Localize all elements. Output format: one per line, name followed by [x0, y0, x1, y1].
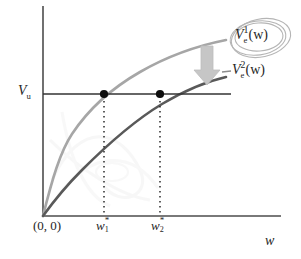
ve2-leader [222, 71, 231, 72]
x-tick-label-w1: w1* [96, 219, 105, 232]
origin-label: (0, 0) [33, 219, 61, 232]
figure-canvas: Vu Ve1(w) Ve2(w) (0, 0) w1* w2* w [0, 0, 301, 259]
x-tick-label-w2: w2* [151, 219, 160, 232]
curve-label-ve1: Ve1(w) [235, 28, 268, 42]
curve-label-ve2: Ve2(w) [232, 63, 265, 77]
intersection-dot-w2 [156, 90, 164, 98]
curve-ve1 [43, 40, 226, 216]
y-axis-value-label: Vu [18, 84, 27, 98]
intersection-dot-w1 [100, 90, 108, 98]
x-axis-label: w [265, 234, 274, 248]
